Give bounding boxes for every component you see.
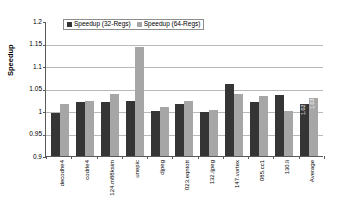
y-tick-label: 0.95 bbox=[18, 131, 42, 138]
bar-s64 bbox=[259, 96, 268, 156]
bar-s32 bbox=[76, 102, 85, 156]
y-tick-label: 1.05 bbox=[18, 86, 42, 93]
bar-group bbox=[200, 22, 218, 156]
bar-s64 bbox=[60, 104, 69, 156]
x-label-slot: unepic bbox=[125, 158, 143, 214]
bar-s32 bbox=[225, 84, 234, 156]
x-tick-label: decodhe4 bbox=[59, 160, 65, 186]
bar-s32 bbox=[200, 112, 209, 156]
bar-data-label: 1.02 bbox=[301, 104, 307, 115]
legend-swatch-32regs-icon bbox=[67, 22, 72, 27]
x-tick-label: 085.cc1 bbox=[259, 160, 265, 181]
x-tick-label: unepic bbox=[134, 160, 140, 178]
bar-s32: 1.02 bbox=[300, 104, 309, 156]
x-tick-label: 130.li bbox=[284, 160, 290, 174]
bar-s32 bbox=[151, 111, 160, 156]
legend-item-32regs: Speedup (32-Regs) bbox=[67, 21, 131, 28]
speedup-bar-chart: Speedup 0.90.9511.051.11.151.2 1.021.03 … bbox=[0, 0, 337, 215]
y-axis-title: Speedup bbox=[6, 16, 15, 76]
bar-group bbox=[275, 22, 293, 156]
x-label-slot: 130.li bbox=[275, 158, 293, 214]
y-tick-label: 0.9 bbox=[18, 154, 42, 161]
x-tick-label: Average bbox=[309, 160, 315, 182]
legend-label-64regs: Speedup (64-Regs) bbox=[144, 21, 201, 28]
x-tick-mark bbox=[324, 156, 325, 159]
bar-group bbox=[151, 22, 169, 156]
x-label-slot: decodhe4 bbox=[50, 158, 68, 214]
bar-s64 bbox=[184, 101, 193, 156]
chart-legend: Speedup (32-Regs) Speedup (64-Regs) bbox=[63, 19, 204, 30]
bar-s64 bbox=[110, 94, 119, 156]
y-tick-label: 1.1 bbox=[18, 64, 42, 71]
bar-s32 bbox=[250, 102, 259, 156]
y-tick-label: 1.15 bbox=[18, 41, 42, 48]
bar-group bbox=[126, 22, 144, 156]
bar-s64 bbox=[85, 101, 94, 156]
y-tick-mark bbox=[43, 135, 46, 136]
y-tick-mark bbox=[43, 112, 46, 113]
x-tick-label: 124.m88ksim bbox=[109, 160, 115, 196]
bar-s32 bbox=[101, 102, 110, 156]
x-label-slot: 023.eqntott bbox=[175, 158, 193, 214]
x-label-slot: 132.ijpeg bbox=[200, 158, 218, 214]
bar-s64 bbox=[160, 107, 169, 157]
x-tick-label: 147.vortex bbox=[234, 160, 240, 188]
x-tick-label: codrle4 bbox=[84, 160, 90, 180]
bar-group bbox=[76, 22, 94, 156]
legend-item-64regs: Speedup (64-Regs) bbox=[137, 21, 201, 28]
legend-label-32regs: Speedup (32-Regs) bbox=[74, 21, 131, 28]
y-tick-mark bbox=[43, 45, 46, 46]
bar-group bbox=[225, 22, 243, 156]
bar-s32 bbox=[175, 104, 184, 156]
x-axis-tick-labels: decodhe4codrle4124.m88ksimunepicdjpeg023… bbox=[45, 158, 323, 214]
bar-data-label: 1.03 bbox=[310, 98, 316, 109]
x-label-slot: Average bbox=[300, 158, 318, 214]
bar-s64: 1.03 bbox=[309, 98, 318, 156]
x-label-slot: 147.vortex bbox=[225, 158, 243, 214]
bar-group bbox=[250, 22, 268, 156]
plot-area: 1.021.03 bbox=[45, 22, 323, 157]
x-label-slot: codrle4 bbox=[75, 158, 93, 214]
bar-s64 bbox=[209, 110, 218, 156]
bar-group: 1.021.03 bbox=[300, 22, 318, 156]
bar-s64 bbox=[284, 111, 293, 156]
x-label-slot: djpeg bbox=[150, 158, 168, 214]
bar-s32 bbox=[126, 101, 135, 156]
bars-layer: 1.021.03 bbox=[46, 22, 323, 156]
y-tick-mark bbox=[43, 90, 46, 91]
y-axis-tick-labels: 0.90.9511.051.11.151.2 bbox=[18, 0, 42, 215]
x-label-slot: 085.cc1 bbox=[250, 158, 268, 214]
bar-group bbox=[175, 22, 193, 156]
bar-s32 bbox=[275, 95, 284, 156]
x-tick-label: 132.ijpeg bbox=[209, 160, 215, 184]
x-tick-label: djpeg bbox=[159, 160, 165, 175]
bar-s32 bbox=[51, 113, 60, 156]
x-tick-label: 023.eqntott bbox=[184, 160, 190, 190]
y-tick-label: 1 bbox=[18, 109, 42, 116]
bar-s64 bbox=[135, 47, 144, 156]
y-tick-mark bbox=[43, 22, 46, 23]
bar-group bbox=[51, 22, 69, 156]
x-label-slot: 124.m88ksim bbox=[100, 158, 118, 214]
y-tick-mark bbox=[43, 67, 46, 68]
bar-s64 bbox=[234, 94, 243, 156]
legend-swatch-64regs-icon bbox=[137, 22, 142, 27]
y-tick-label: 1.2 bbox=[18, 19, 42, 26]
bar-group bbox=[101, 22, 119, 156]
